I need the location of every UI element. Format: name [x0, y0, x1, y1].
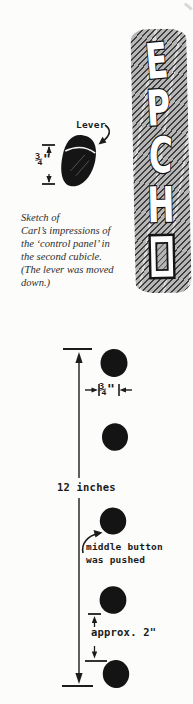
caption-line: the ‘control panel’ in — [21, 237, 137, 250]
panel-letter-h: H — [147, 176, 175, 234]
pushed-note-line2: was pushed — [86, 554, 163, 567]
button-5 — [102, 659, 130, 688]
button-1 — [100, 348, 129, 378]
spacing-arrow-right — [92, 387, 99, 392]
lever-width-dimension — [42, 145, 55, 184]
bottom-gap-label: approx. 2" — [91, 626, 156, 638]
lever-sketch — [28, 112, 133, 197]
button-4 — [99, 585, 128, 614]
caption: Sketch of Carl’s impressions of the ‘con… — [21, 211, 137, 290]
total-height-label: 12 inches — [57, 481, 116, 493]
button-2 — [101, 423, 128, 452]
panel-symbols: E P C H — [130, 28, 192, 293]
button-spacing-label: ¾" — [99, 381, 115, 396]
total-height-dimension — [62, 349, 93, 686]
caption-line: Carl’s impressions of — [21, 224, 137, 237]
caption-line: down.) — [21, 276, 137, 289]
sketch-page: Lever ¾" E P — [0, 0, 193, 704]
lever-knob — [58, 133, 98, 189]
dimension-arrow-down — [46, 176, 51, 183]
panel-rectangle-symbol — [150, 235, 175, 278]
caption-line: the second cubicle. — [21, 250, 137, 263]
dimension-arrow-up — [46, 146, 51, 153]
caption-line: (The lever was moved — [21, 263, 137, 276]
lever-pointer-arrowhead — [99, 137, 107, 145]
caption-line: Sketch of — [21, 211, 137, 224]
control-panel-band: E P C H — [130, 28, 192, 293]
pushed-note-line1: middle button — [86, 541, 163, 554]
pushed-button-note: middle button was pushed — [86, 541, 163, 566]
gap-arrow-down — [92, 652, 97, 659]
button-3-middle-pushed — [99, 507, 127, 536]
scan-artifact — [184, 2, 193, 10]
dimension-arrow-down — [75, 673, 82, 684]
